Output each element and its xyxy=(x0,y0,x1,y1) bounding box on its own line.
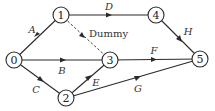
node-label-5: 5 xyxy=(197,53,204,66)
edge-label-e: E xyxy=(91,77,100,88)
node-label-3: 3 xyxy=(107,54,114,67)
edge-H: H xyxy=(156,15,200,59)
node-label-4: 4 xyxy=(153,9,160,22)
edge-label-h: H xyxy=(183,26,193,37)
edge-E: E xyxy=(66,60,110,98)
node-1: 1 xyxy=(53,7,69,23)
node-label-2: 2 xyxy=(63,92,70,105)
node-4: 4 xyxy=(148,7,164,23)
edge-G: G xyxy=(66,59,200,98)
edge-dummy: Dummy xyxy=(61,15,128,60)
edge-D: D xyxy=(61,1,156,18)
node-2: 2 xyxy=(58,90,74,106)
node-label-0: 0 xyxy=(11,54,18,67)
edge-label-f: F xyxy=(150,45,159,56)
edge-label-a: A xyxy=(27,24,35,35)
edge-label-b: B xyxy=(57,65,65,76)
node-5: 5 xyxy=(192,51,208,67)
node-0: 0 xyxy=(6,52,22,68)
node-3: 3 xyxy=(102,52,118,68)
edge-label-dummy: Dummy xyxy=(89,28,128,39)
edge-label-g: G xyxy=(134,83,142,94)
node-label-1: 1 xyxy=(58,9,65,22)
edge-label-c: C xyxy=(32,84,40,95)
edge-label-d: D xyxy=(104,1,113,12)
edge-F: F xyxy=(110,45,200,63)
activity-network-diagram: A B C D E F G H Dummy xyxy=(0,0,215,111)
edge-A: A xyxy=(14,15,61,60)
